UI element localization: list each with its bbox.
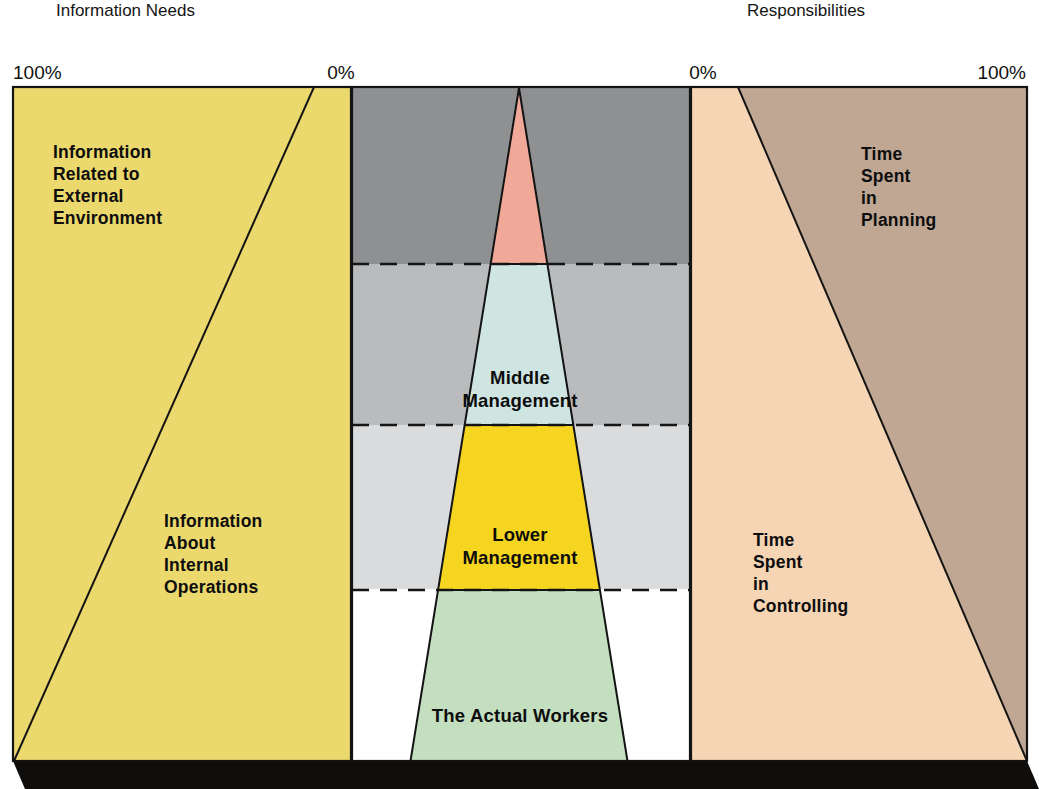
left-internal-line-4: Operations (164, 577, 258, 597)
base-bar-shape (13, 761, 1039, 789)
axis-left-inner-0: 0% (327, 62, 355, 83)
management-pyramid-diagram: Information Needs Responsibilities 100% … (0, 0, 1039, 789)
left-external-line-2: Related to (53, 164, 140, 184)
title-responsibilities: Responsibilities (747, 1, 865, 20)
tier-middle-label-line-2: Management (462, 390, 577, 411)
left-external-line-3: External (53, 186, 124, 206)
left-internal-line-3: Internal (164, 555, 229, 575)
tier-workers-label: The Actual Workers (432, 705, 608, 726)
left-internal-line-1: Information (164, 511, 262, 531)
tier-lower-label-line-1: Lower (492, 524, 547, 545)
axis-right-outer-100: 100% (977, 62, 1026, 83)
right-controlling-line-1: Time (753, 530, 794, 550)
axis-right-inner-0: 0% (689, 62, 717, 83)
right-planning-line-4: Planning (861, 210, 937, 230)
center-panel-pyramid: Middle Management Lower Management The A… (352, 87, 690, 761)
right-panel-responsibilities: Time Spent in Planning Time Spent in Con… (691, 87, 1027, 761)
base-bar (13, 761, 1039, 789)
right-controlling-line-4: Controlling (753, 596, 849, 616)
title-information-needs: Information Needs (56, 1, 195, 20)
right-planning-line-2: Spent (861, 166, 911, 186)
tier-middle-label-line-1: Middle (490, 367, 550, 388)
right-planning-line-1: Time (861, 144, 902, 164)
axis-left-outer-100: 100% (13, 62, 62, 83)
figure-svg: Information Needs Responsibilities 100% … (0, 0, 1039, 789)
right-controlling-line-2: Spent (753, 552, 803, 572)
left-external-line-4: Environment (53, 208, 162, 228)
left-internal-line-2: About (164, 533, 216, 553)
left-panel-information-needs: Information Related to External Environm… (13, 87, 351, 761)
right-planning-line-3: in (861, 188, 877, 208)
left-external-line-1: Information (53, 142, 151, 162)
tier-lower-label-line-2: Management (462, 547, 577, 568)
tier-workers-shape (411, 590, 628, 761)
right-controlling-line-3: in (753, 574, 769, 594)
